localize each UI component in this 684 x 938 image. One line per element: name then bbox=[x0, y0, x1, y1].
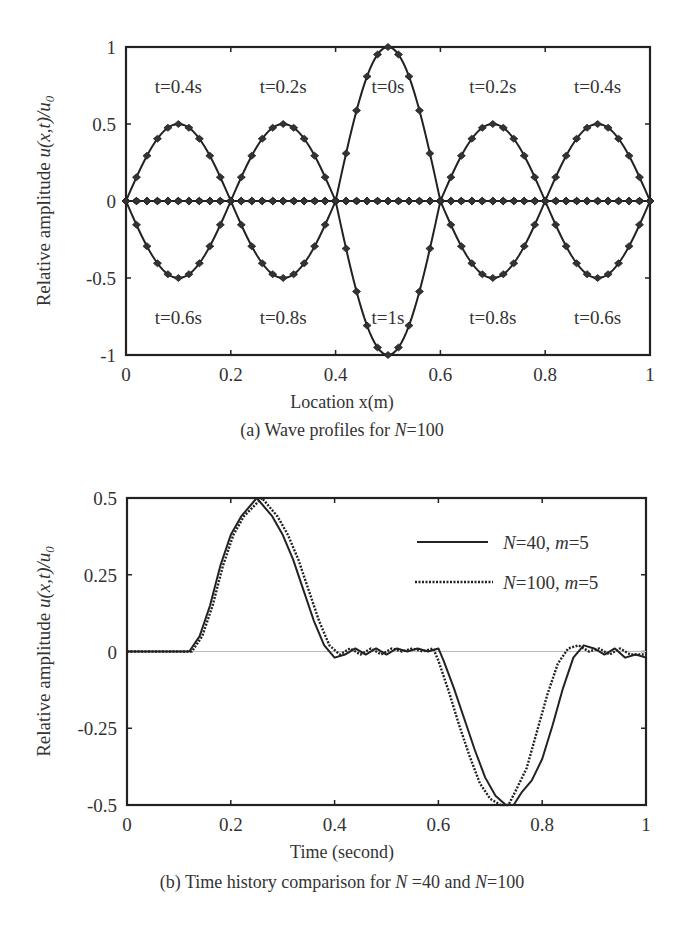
caption-a: (a) Wave profiles for N=100 bbox=[0, 420, 684, 441]
diamond-marker-icon bbox=[468, 198, 476, 205]
diamond-marker-icon bbox=[625, 243, 633, 250]
caption-text: (b) Time history comparison for bbox=[160, 872, 396, 892]
time-annotation: t=1s bbox=[372, 307, 405, 328]
diamond-marker-icon bbox=[573, 198, 581, 205]
diamond-marker-icon bbox=[520, 243, 528, 250]
diamond-marker-icon bbox=[353, 107, 361, 114]
diamond-marker-icon bbox=[415, 288, 423, 295]
caption-b: (b) Time history comparison for N =40 an… bbox=[0, 872, 684, 893]
diamond-marker-icon bbox=[164, 198, 172, 205]
diamond-marker-icon bbox=[531, 174, 539, 181]
diamond-marker-icon bbox=[300, 198, 308, 205]
diamond-marker-icon bbox=[520, 152, 528, 159]
diamond-marker-icon bbox=[248, 152, 256, 159]
y-tick-label: -0.25 bbox=[77, 718, 117, 739]
wave-line-t04s bbox=[126, 124, 650, 201]
diamond-marker-icon bbox=[311, 152, 319, 159]
diamond-marker-icon bbox=[636, 174, 644, 181]
diamond-marker-icon bbox=[531, 198, 539, 205]
diamond-marker-icon bbox=[405, 322, 413, 329]
diamond-marker-icon bbox=[447, 174, 455, 181]
y-tick-label: -0.5 bbox=[86, 268, 116, 289]
diamond-marker-icon bbox=[415, 107, 423, 114]
diamond-marker-icon bbox=[216, 221, 224, 228]
diamond-marker-icon bbox=[353, 288, 361, 295]
x-axis-title-b: Time (second) bbox=[0, 842, 684, 863]
x-tick-label: 1 bbox=[641, 814, 651, 835]
figure-wave-profiles: 00.20.40.60.81-1-0.500.51Relative amplit… bbox=[0, 0, 684, 460]
wave-line-t1s bbox=[126, 201, 650, 355]
time-annotation: t=0.6s bbox=[574, 307, 621, 328]
diamond-marker-icon bbox=[615, 198, 623, 205]
time-annotation: t=0.8s bbox=[469, 307, 516, 328]
diamond-marker-icon bbox=[174, 275, 182, 282]
diamond-marker-icon bbox=[636, 198, 644, 205]
diamond-marker-icon bbox=[321, 221, 329, 228]
x-tick-label: 0.4 bbox=[324, 364, 348, 385]
diamond-marker-icon bbox=[143, 243, 151, 250]
diamond-marker-icon bbox=[279, 275, 287, 282]
diamond-marker-icon bbox=[552, 221, 560, 228]
x-axis-label: Location x(m) bbox=[290, 392, 393, 412]
diamond-marker-icon bbox=[625, 198, 633, 205]
diamond-marker-icon bbox=[153, 198, 161, 205]
diamond-marker-icon bbox=[269, 198, 277, 205]
diamond-marker-icon bbox=[625, 152, 633, 159]
diamond-marker-icon bbox=[583, 198, 591, 205]
y-tick-label: 0 bbox=[107, 191, 117, 212]
diamond-marker-icon bbox=[321, 174, 329, 181]
diamond-marker-icon bbox=[353, 198, 361, 205]
diamond-marker-icon bbox=[384, 352, 392, 359]
diamond-marker-icon bbox=[206, 243, 214, 250]
y-tick-label: 1 bbox=[107, 37, 117, 58]
wave-line-t0s bbox=[126, 47, 650, 201]
diamond-marker-icon bbox=[363, 198, 371, 205]
diamond-marker-icon bbox=[604, 198, 612, 205]
caption-suffix: =100 bbox=[487, 872, 524, 892]
y-tick-label: 0.25 bbox=[84, 565, 117, 586]
diamond-marker-icon bbox=[216, 198, 224, 205]
diamond-marker-icon bbox=[457, 243, 465, 250]
diamond-marker-icon bbox=[279, 198, 287, 205]
diamond-marker-icon bbox=[394, 198, 402, 205]
x-tick-label: 0.6 bbox=[429, 364, 453, 385]
diamond-marker-icon bbox=[520, 198, 528, 205]
diamond-marker-icon bbox=[562, 243, 570, 250]
diamond-marker-icon bbox=[426, 150, 434, 157]
diamond-marker-icon bbox=[499, 198, 507, 205]
diamond-marker-icon bbox=[143, 152, 151, 159]
y-axis-label: Relative amplitude u(x,t)/u0 bbox=[33, 95, 57, 306]
chart-time-history: 00.20.40.60.81-0.5-0.2500.250.5Relative … bbox=[0, 460, 684, 938]
diamond-marker-icon bbox=[426, 245, 434, 252]
diamond-marker-icon bbox=[415, 198, 423, 205]
diamond-marker-icon bbox=[311, 198, 319, 205]
legend-label: N=40, m=5 bbox=[502, 532, 589, 553]
diamond-marker-icon bbox=[258, 198, 266, 205]
x-tick-label: 0.2 bbox=[219, 364, 243, 385]
diamond-marker-icon bbox=[132, 198, 140, 205]
time-annotation: t=0.4s bbox=[574, 76, 621, 97]
time-annotation: t=0s bbox=[372, 76, 405, 97]
diamond-marker-icon bbox=[489, 275, 497, 282]
diamond-marker-icon bbox=[594, 121, 602, 128]
diamond-marker-icon bbox=[237, 174, 245, 181]
diamond-marker-icon bbox=[562, 152, 570, 159]
figure-time-history: 00.20.40.60.81-0.5-0.2500.250.5Relative … bbox=[0, 460, 684, 938]
y-tick-label: 0.5 bbox=[93, 488, 117, 509]
diamond-marker-icon bbox=[206, 198, 214, 205]
time-annotation: t=0.4s bbox=[155, 76, 202, 97]
diamond-marker-icon bbox=[552, 198, 560, 205]
diamond-marker-icon bbox=[248, 198, 256, 205]
legend: N=40, m=5N=100, m=5 bbox=[415, 532, 598, 593]
diamond-marker-icon bbox=[342, 198, 350, 205]
time-annotation: t=0.2s bbox=[469, 76, 516, 97]
diamond-marker-icon bbox=[436, 198, 444, 205]
caption-var: N bbox=[395, 872, 407, 892]
chart-wave-profiles: 00.20.40.60.81-1-0.500.51Relative amplit… bbox=[0, 0, 684, 460]
diamond-marker-icon bbox=[489, 198, 497, 205]
diamond-marker-icon bbox=[405, 198, 413, 205]
diamond-marker-icon bbox=[447, 221, 455, 228]
diamond-marker-icon bbox=[237, 198, 245, 205]
diamond-marker-icon bbox=[489, 121, 497, 128]
diamond-marker-icon bbox=[216, 174, 224, 181]
